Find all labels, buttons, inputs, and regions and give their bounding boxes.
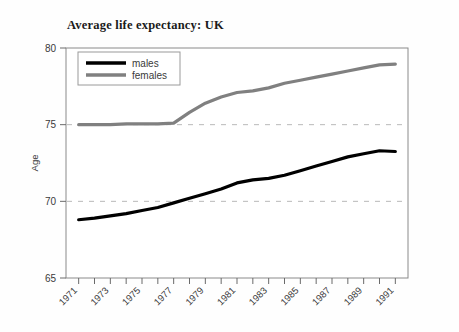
y-axis-title: Age (29, 155, 40, 172)
x-tick-label-1989: 1989 (341, 285, 364, 308)
x-tick-label-1979: 1979 (183, 285, 206, 308)
chart-legend: males females (78, 52, 180, 85)
x-tick-label-1987: 1987 (310, 285, 333, 308)
x-tick-label-1971: 1971 (56, 285, 79, 308)
legend-label-males: males (132, 58, 159, 69)
y-tick-label-70: 70 (45, 196, 57, 207)
line-chart: 65707580 1971197319751977197919811983198… (0, 0, 459, 332)
y-tick-label-65: 65 (45, 273, 57, 284)
x-tick-label-1981: 1981 (215, 285, 238, 308)
y-tick-label-80: 80 (45, 43, 57, 54)
x-tick-label-1985: 1985 (278, 285, 301, 308)
x-tick-label-1973: 1973 (88, 285, 111, 308)
figure-container: Average life expectancy: UK 65707580 197… (0, 0, 459, 332)
x-tick-label-1991: 1991 (373, 285, 396, 308)
x-tick-label-1983: 1983 (246, 285, 269, 308)
x-axis: 1971197319751977197919811983198519871989… (56, 278, 395, 307)
y-axis: 65707580 (45, 43, 66, 284)
y-tick-label-75: 75 (45, 119, 57, 130)
legend-label-females: females (132, 70, 167, 81)
x-tick-label-1975: 1975 (120, 285, 143, 308)
x-tick-label-1977: 1977 (151, 285, 174, 308)
